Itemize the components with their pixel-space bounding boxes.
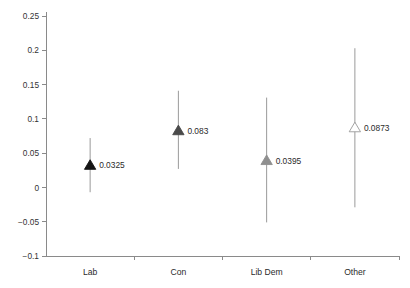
y-tick-label: 0.05 bbox=[23, 148, 40, 158]
chart-container: −0.1−0.0500.050.10.150.20.25LabConLib De… bbox=[0, 0, 410, 288]
error-bar-chart: −0.1−0.0500.050.10.150.20.25LabConLib De… bbox=[0, 0, 410, 288]
x-tick-label-other: Other bbox=[344, 267, 366, 277]
data-point-group-con: 0.083 bbox=[173, 91, 209, 169]
x-tick-label-lab: Lab bbox=[83, 267, 98, 277]
y-tick-label: 0.1 bbox=[27, 114, 39, 124]
data-point-group-other: 0.0873 bbox=[349, 48, 390, 207]
y-tick-label: 0.25 bbox=[23, 11, 40, 21]
x-tick-label-con: Con bbox=[170, 267, 186, 277]
marker-triangle bbox=[349, 122, 360, 132]
data-point-group-lib-dem: 0.0395 bbox=[261, 98, 302, 223]
data-point-group-lab: 0.0325 bbox=[84, 138, 125, 192]
y-tick-label: −0.05 bbox=[18, 217, 39, 227]
marker-triangle bbox=[173, 125, 184, 135]
data-value-label: 0.0395 bbox=[276, 156, 302, 166]
x-tick-label-lib-dem: Lib Dem bbox=[251, 267, 283, 277]
data-value-label: 0.0873 bbox=[364, 123, 390, 133]
y-tick-label: 0 bbox=[34, 183, 39, 193]
marker-triangle bbox=[84, 160, 95, 170]
marker-triangle bbox=[261, 155, 272, 165]
y-tick-label: 0.2 bbox=[27, 45, 39, 55]
y-tick-label: −0.1 bbox=[23, 251, 40, 261]
data-value-label: 0.083 bbox=[187, 126, 208, 136]
data-value-label: 0.0325 bbox=[99, 160, 125, 170]
y-tick-label: 0.15 bbox=[23, 80, 40, 90]
